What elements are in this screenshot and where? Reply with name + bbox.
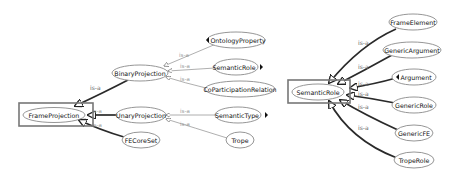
node-fecoreset[interactable]: FECoreSet [122,132,160,148]
node-label: BinaryProjection [114,70,165,78]
edge-label: is-a [179,52,189,58]
node-label: GenericFE [398,130,430,137]
edge-ontologyproperty-to-binary: is-a [164,44,216,66]
edge-label: is-a [180,108,190,114]
edge-coparticipation-to-binary: is-a [166,76,206,88]
node-troperole[interactable]: TropeRole [394,152,434,168]
expand-icon[interactable] [265,112,268,118]
node-genericfe[interactable]: GenericFE [395,125,433,141]
node-label: UnaryProjection [116,112,166,120]
expand-icon[interactable] [260,64,263,70]
edge-label: is-a [180,63,190,69]
node-label: SemanticType [215,112,259,120]
node-label: CoParticipationRelation [203,86,276,94]
left-diagram: is-a is-a is-a is-a is-a is-a is-a [19,32,277,148]
node-ontologyproperty[interactable]: OntologyProperty [206,32,266,48]
node-label: FrameProjection [29,112,80,120]
node-frameprojection[interactable]: FrameProjection [23,108,85,123]
node-semanticrole-small[interactable]: SemanticRole [212,59,263,75]
ontology-graph-canvas: is-a is-a is-a is-a is-a is-a is-a [0,0,469,180]
edge-trope-to-unary: is-a [166,119,227,138]
node-label: FECoreSet [125,137,158,144]
edge-binary-to-frameprojection: is-a [75,80,128,106]
node-label: Argument [400,74,432,82]
edge-label: is-a [180,76,190,82]
node-label: GenericArgument [384,47,440,55]
node-label: SemanticRole [212,64,255,71]
node-label: SemanticRole [296,89,339,96]
edge-fecoreset-to-frameprojection: is-a [79,120,124,137]
edge-label: is-a [90,84,101,91]
node-semantictype[interactable]: SemanticType [215,107,268,123]
node-trope[interactable]: Trope [226,132,254,148]
edge-semanticrole-to-binary: is-a [168,63,215,71]
node-frameelement[interactable]: FrameElement [389,14,437,30]
edge-argument-to-semanticrole: is-a [350,78,396,88]
edge-label: is-a [358,90,369,97]
node-binaryprojection[interactable]: BinaryProjection [112,65,168,81]
node-label: Trope [230,137,248,145]
edge-label: is-a [358,80,369,87]
edge-label: is-a [180,121,190,127]
edge-label: is-a [358,63,369,70]
node-unaryprojection[interactable]: UnaryProjection [116,107,166,123]
node-label: GenericRole [395,102,433,109]
node-label: TropeRole [398,157,430,165]
edge-genericfe-to-semanticrole: is-a [340,100,398,130]
edge-label: is-a [358,103,369,110]
edge-frameelement-to-semanticrole: is-a [329,29,396,83]
node-semanticrole[interactable]: SemanticRole [292,84,344,100]
edge-label: is-a [358,39,369,46]
node-genericrole[interactable]: GenericRole [392,97,436,113]
node-argument[interactable]: Argument [392,69,436,85]
node-genericargument[interactable]: GenericArgument [383,42,441,58]
edge-genericrole-to-semanticrole: is-a [347,90,395,103]
node-label: OntologyProperty [210,37,266,45]
right-diagram: is-a is-a is-a is-a is-a is-a SemanticRo… [288,14,441,168]
node-label: FrameElement [390,19,436,26]
edge-semantictype-to-unary: is-a [166,108,216,115]
node-coparticipationrelation[interactable]: CoParticipationRelation [203,81,276,97]
edge-label: is-a [358,124,369,131]
